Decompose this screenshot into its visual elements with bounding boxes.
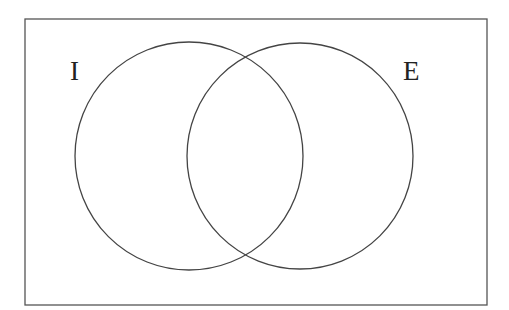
set-i-circle bbox=[75, 42, 303, 270]
set-i-label: I bbox=[70, 56, 79, 86]
venn-diagram: I E bbox=[0, 0, 509, 310]
set-e-label: E bbox=[403, 56, 420, 86]
set-e-circle bbox=[187, 43, 413, 269]
